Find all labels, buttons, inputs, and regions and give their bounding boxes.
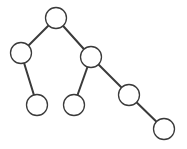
tree-node-root — [46, 8, 67, 29]
tree-node-L — [11, 43, 32, 64]
binary-tree-diagram — [0, 0, 187, 149]
node-circle — [154, 119, 175, 140]
tree-node-RL — [64, 95, 85, 116]
tree-node-R — [81, 47, 102, 68]
node-circle — [11, 43, 32, 64]
node-circle — [64, 95, 85, 116]
nodes-layer — [11, 8, 175, 140]
node-circle — [81, 47, 102, 68]
tree-node-RR — [119, 85, 140, 106]
node-circle — [46, 8, 67, 29]
node-circle — [27, 95, 48, 116]
tree-node-LR — [27, 95, 48, 116]
tree-node-RRR — [154, 119, 175, 140]
node-circle — [119, 85, 140, 106]
